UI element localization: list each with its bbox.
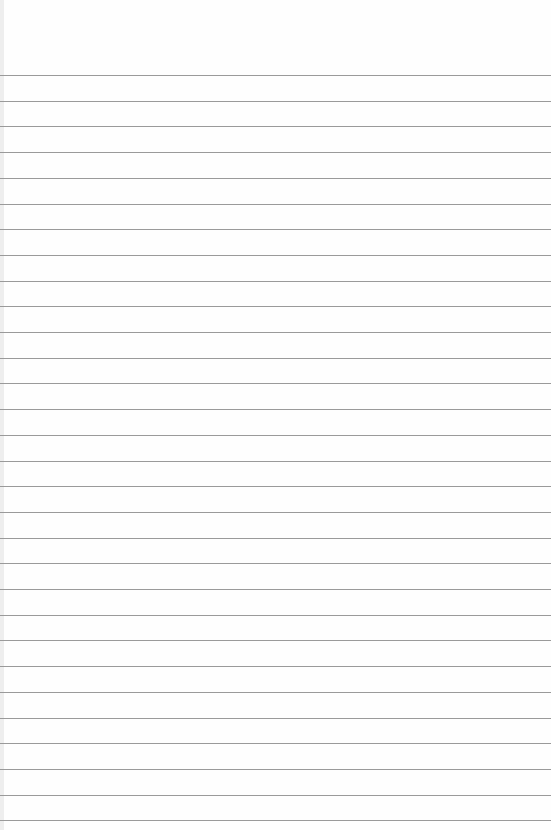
ruled-line (0, 769, 551, 770)
ruled-line (0, 75, 551, 76)
ruled-line (0, 615, 551, 616)
ruled-line (0, 512, 551, 513)
ruled-line (0, 718, 551, 719)
ruled-line (0, 563, 551, 564)
ruled-line (0, 435, 551, 436)
ruled-line (0, 486, 551, 487)
ruled-line (0, 126, 551, 127)
ruled-line (0, 332, 551, 333)
ruled-line (0, 152, 551, 153)
ruled-line (0, 255, 551, 256)
ruled-line (0, 461, 551, 462)
ruled-line (0, 820, 551, 821)
ruled-line (0, 538, 551, 539)
ruled-line (0, 383, 551, 384)
ruled-line (0, 795, 551, 796)
ruled-line (0, 589, 551, 590)
lined-paper (0, 0, 551, 830)
ruled-line (0, 743, 551, 744)
paper-left-edge (0, 0, 4, 830)
ruled-line (0, 409, 551, 410)
ruled-line (0, 306, 551, 307)
ruled-line (0, 101, 551, 102)
ruled-line (0, 692, 551, 693)
ruled-line (0, 204, 551, 205)
ruled-line (0, 640, 551, 641)
ruled-line (0, 358, 551, 359)
ruled-line (0, 229, 551, 230)
ruled-line (0, 666, 551, 667)
ruled-line (0, 178, 551, 179)
ruled-line (0, 281, 551, 282)
